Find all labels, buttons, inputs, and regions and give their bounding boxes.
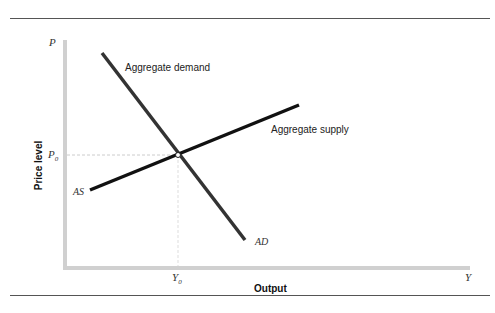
x-axis-end-label: Y <box>465 271 471 283</box>
p0-label: P0 <box>48 148 58 163</box>
ad-short-label: AD <box>255 236 268 247</box>
chart-canvas <box>0 0 495 313</box>
p0-main: P <box>48 148 55 160</box>
aggregate-demand-curve <box>102 53 245 240</box>
as-name-label: Aggregate supply <box>271 124 349 135</box>
y0-label: Y0 <box>172 271 182 286</box>
y0-sub: 0 <box>178 278 182 286</box>
as-short-label: AS <box>73 186 84 197</box>
x-axis-title: Output <box>254 283 287 294</box>
ad-name-label: Aggregate demand <box>125 62 210 73</box>
y-axis-title: Price level <box>33 136 44 196</box>
y-axis-end-label: P <box>49 36 56 48</box>
p0-sub: 0 <box>55 155 59 163</box>
equilibrium-point <box>176 153 181 158</box>
aggregate-supply-curve <box>90 105 299 190</box>
